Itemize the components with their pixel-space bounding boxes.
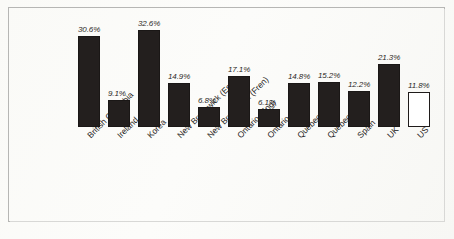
- bar-value-label: 17.1%: [228, 65, 250, 74]
- bar-chart-plot-area: 30.6%British Columbia9.1%Ireland32.6%Kor…: [0, 0, 454, 239]
- bar-value-label: 14.9%: [168, 72, 190, 81]
- bar: [378, 64, 400, 127]
- bar: [78, 36, 100, 127]
- category-label: US: [415, 125, 430, 140]
- bar-value-label: 21.3%: [378, 53, 400, 62]
- bar-value-label: 15.2%: [318, 71, 340, 80]
- chart-screenshot: 30.6%British Columbia9.1%Ireland32.6%Kor…: [0, 0, 454, 239]
- bar-value-label: 9.1%: [108, 89, 126, 98]
- bar: [408, 92, 430, 127]
- bar-value-label: 6.8%: [198, 96, 216, 105]
- bar-value-label: 14.8%: [288, 72, 310, 81]
- bar-value-label: 32.6%: [138, 19, 160, 28]
- category-label: UK: [385, 125, 400, 140]
- bar-value-label: 12.2%: [348, 80, 370, 89]
- bar-value-label: 6.1%: [258, 98, 276, 107]
- bar-value-label: 11.8%: [408, 81, 430, 90]
- bar-value-label: 30.6%: [78, 25, 100, 34]
- bar: [138, 30, 160, 127]
